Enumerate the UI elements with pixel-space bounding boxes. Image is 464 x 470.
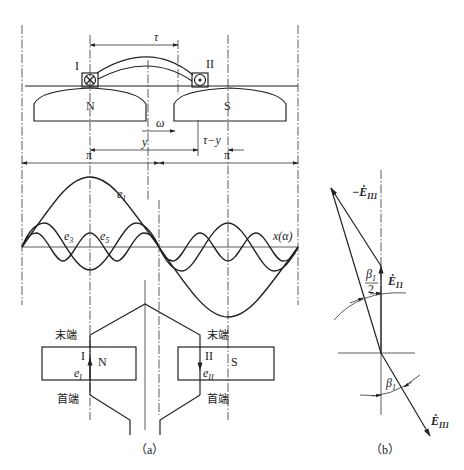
pole-N-label: N — [86, 99, 95, 113]
E-II1-label: ĖII1 — [430, 414, 449, 430]
tau-minus-y-label: τ−y — [203, 133, 221, 147]
coil-side-II-box — [178, 347, 274, 380]
figure-b: −ĖII1 ĖI1 ĖII1 β1 2 β1 （b） — [331, 170, 449, 457]
start-terminal-label-right: 首端 — [207, 392, 229, 406]
e5-label: e5 — [100, 229, 109, 245]
coil-arc-inner — [98, 66, 192, 81]
omega-label: ω — [156, 116, 164, 130]
pi-left-label: π — [86, 148, 92, 162]
pole-S-coil-label: S — [231, 355, 238, 369]
tau-label: τ — [154, 30, 159, 44]
beta-label: β1 — [385, 376, 396, 392]
x-alpha-label: x(α) — [272, 229, 293, 243]
eII-label: eII — [203, 366, 214, 382]
figure-a: τ I II N S ω y τ−y π — [22, 25, 298, 457]
caption-b: （b） — [370, 443, 400, 457]
coil-I-label: I — [81, 349, 85, 363]
E-I1-label: ĖI1 — [387, 274, 403, 290]
start-terminal-label-left: 首端 — [57, 392, 79, 406]
vector-E-II1 — [381, 353, 430, 436]
end-terminal-label-left: 末端 — [55, 328, 77, 342]
pi-right-label: π — [224, 148, 230, 162]
coil-side-I-box — [42, 347, 136, 380]
coil-II-label-top: II — [206, 57, 214, 71]
pole-S-label: S — [224, 99, 231, 113]
lead-start-II — [160, 395, 200, 435]
coil-II-label: II — [205, 349, 213, 363]
lead-start-I — [90, 395, 130, 435]
eI-label: eI — [74, 366, 82, 382]
end-terminal-label-right: 末端 — [207, 328, 229, 342]
e1-label: e1 — [117, 187, 126, 203]
beta-half-denominator: 2 — [368, 282, 374, 296]
e3-label: e3 — [64, 229, 73, 245]
beta-half-numerator: β1 — [365, 267, 376, 283]
winding-emf-diagram: τ I II N S ω y τ−y π — [0, 0, 464, 470]
resultant-line — [331, 188, 381, 353]
coil-I-label-top: I — [75, 59, 79, 73]
neg-E-II1-label: −ĖII1 — [352, 185, 378, 201]
caption-a: （a） — [135, 443, 164, 457]
pole-N-coil-label: N — [98, 355, 107, 369]
y-label: y — [141, 135, 148, 149]
